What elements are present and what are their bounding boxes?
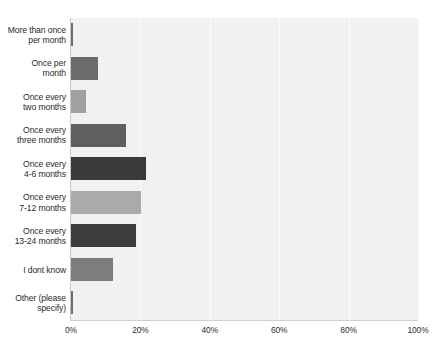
bar — [71, 23, 73, 46]
category-label-line: Once every — [0, 92, 66, 102]
x-tick-label: 0% — [41, 325, 101, 335]
bar-row — [71, 219, 418, 253]
x-tick-label: 20% — [110, 325, 170, 335]
bar — [71, 224, 136, 247]
bar-row — [71, 52, 418, 86]
category-label: Once permonth — [0, 58, 66, 78]
category-label-line: specify) — [0, 303, 66, 313]
category-label-line: 4-6 months — [0, 169, 66, 179]
bar-row — [71, 152, 418, 186]
category-label: Other (pleasespecify) — [0, 293, 66, 313]
gridline-100pct — [418, 18, 419, 320]
category-label-line: Once every — [0, 159, 66, 169]
x-tick-label: 100% — [388, 325, 433, 335]
category-label: I dont know — [0, 265, 66, 275]
category-label-line: Once every — [0, 125, 66, 135]
category-label-line: 7-12 months — [0, 203, 66, 213]
bar-row — [71, 286, 418, 320]
category-label-line: Once every — [0, 192, 66, 202]
x-tick-label: 80% — [319, 325, 379, 335]
category-label-line: month — [0, 68, 66, 78]
category-label: More than onceper month — [0, 25, 66, 45]
bar-chart: More than onceper monthOnce permonthOnce… — [0, 0, 433, 363]
bar — [71, 124, 126, 147]
category-label-line: I dont know — [0, 265, 66, 275]
bar — [71, 157, 146, 180]
category-label: Once every7-12 months — [0, 192, 66, 212]
bar — [71, 258, 113, 281]
category-label: Once everytwo months — [0, 92, 66, 112]
bar — [71, 57, 98, 80]
bar-row — [71, 119, 418, 153]
category-label-line: two months — [0, 102, 66, 112]
x-tick-label: 40% — [180, 325, 240, 335]
bar — [71, 291, 73, 314]
category-label-line: Other (please — [0, 293, 66, 303]
category-label-line: per month — [0, 35, 66, 45]
bar-row — [71, 186, 418, 220]
x-tick-label: 60% — [249, 325, 309, 335]
bar — [71, 90, 86, 113]
category-label: Once every13-24 months — [0, 226, 66, 246]
category-label: Once everythree months — [0, 125, 66, 145]
category-label: Once every4-6 months — [0, 159, 66, 179]
y-axis-line — [70, 18, 71, 320]
category-label-line: Once every — [0, 226, 66, 236]
bar-row — [71, 253, 418, 287]
bar — [71, 191, 141, 214]
category-label-line: More than once — [0, 25, 66, 35]
category-label-line: Once per — [0, 58, 66, 68]
plot-area — [71, 18, 418, 320]
bar-row — [71, 85, 418, 119]
x-axis-line — [70, 320, 418, 321]
category-label-line: three months — [0, 135, 66, 145]
category-label-line: 13-24 months — [0, 236, 66, 246]
bar-row — [71, 18, 418, 52]
